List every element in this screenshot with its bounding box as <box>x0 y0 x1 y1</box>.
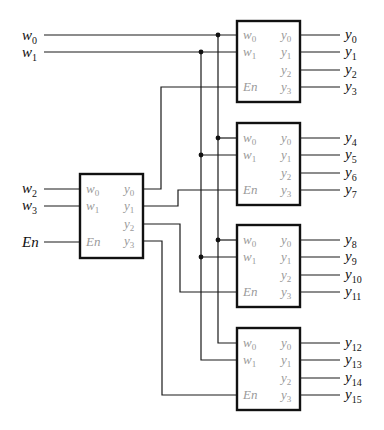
output-label-y3: y3 <box>343 78 357 97</box>
junction-dot <box>199 255 204 260</box>
decoder-select: w0 w1 En y0 y1 y2 y3 <box>80 174 143 258</box>
output-label-y11: y11 <box>343 283 361 302</box>
output-label-y15: y15 <box>343 386 362 405</box>
output-label-y1: y1 <box>343 43 357 62</box>
junction-dot <box>199 153 204 158</box>
junction-dot <box>216 33 221 38</box>
output-label-y13: y13 <box>343 351 362 370</box>
port-en: En <box>242 284 257 299</box>
output-label-y5: y5 <box>343 146 357 165</box>
input-label-w1: w1 <box>22 44 37 63</box>
output-label-y7: y7 <box>343 181 357 200</box>
junction-dot <box>216 136 221 141</box>
port-en: En <box>242 79 257 94</box>
decoder-3: w0 w1 En y0 y1 y2 y3 <box>237 225 340 307</box>
port-en: En <box>242 387 257 402</box>
decoder-1: w0 w1 En y0 y1 y2 y3 <box>237 21 340 102</box>
decoder-4: w0 w1 En y0 y1 y2 y3 <box>237 328 340 410</box>
input-label-en: En <box>21 234 39 250</box>
port-en: En <box>242 182 257 197</box>
enable-wire-3 <box>143 224 237 292</box>
decoder-2: w0 w1 En y0 y1 y2 y3 <box>237 123 340 205</box>
junction-dot <box>216 238 221 243</box>
enable-wire-4 <box>143 241 237 395</box>
output-label-y9: y9 <box>343 248 357 267</box>
junction-dot <box>199 50 204 55</box>
port-en: En <box>85 234 100 249</box>
output-labels: y0 y1 y2 y3 y4 y5 y6 y7 y8 y9 y10 y11 y1… <box>343 26 362 405</box>
enable-wire-2 <box>143 190 237 206</box>
input-label-w3: w3 <box>22 197 37 216</box>
decoder-tree-diagram: w0 w1 w2 w3 En w0 w1 En y0 y1 y2 y3 <box>0 0 384 430</box>
